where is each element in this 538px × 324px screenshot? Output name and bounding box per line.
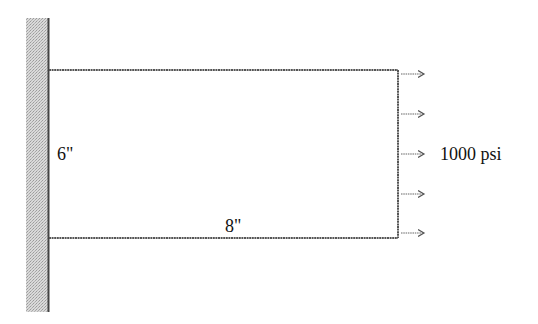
load-arrows bbox=[401, 74, 424, 233]
height-dimension-label: 6" bbox=[57, 145, 73, 163]
fixed-wall-hatch bbox=[26, 18, 48, 312]
width-dimension-label: 8" bbox=[225, 217, 241, 235]
load-magnitude-label: 1000 psi bbox=[440, 145, 502, 163]
